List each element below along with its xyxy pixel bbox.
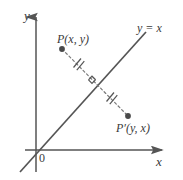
line-equation-label: y = x bbox=[137, 22, 162, 34]
x-axis-label: x bbox=[156, 155, 162, 168]
point-marker-p bbox=[59, 46, 65, 52]
point-label-p-prime: P′(y, x) bbox=[116, 122, 150, 134]
tick-marks-upper bbox=[74, 59, 85, 71]
reflection-figure: y x 0 y = x P(x, y) P′(y, x) bbox=[0, 0, 183, 180]
origin-label: 0 bbox=[39, 152, 45, 164]
point-marker-p-prime bbox=[125, 113, 131, 119]
y-axis-label: y bbox=[24, 9, 30, 22]
point-label-p: P(x, y) bbox=[57, 33, 89, 45]
reflection-segment bbox=[62, 49, 128, 116]
tick-marks-lower bbox=[107, 93, 118, 105]
